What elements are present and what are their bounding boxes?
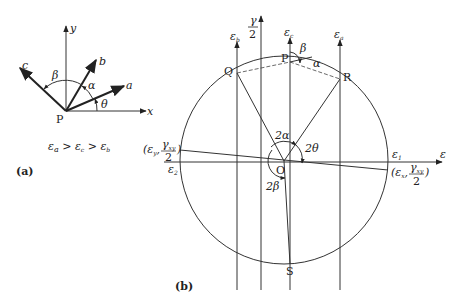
point-eps-y-label: (εy, γxy ) 2: [143, 138, 181, 164]
panel-b: ε γ 2 εb εc εa Q P R S O β: [143, 14, 446, 293]
ray-b-label: b: [99, 55, 106, 68]
ray-a-label: a: [126, 79, 133, 92]
two-theta-arc: [296, 145, 302, 163]
two-alpha-arc: [271, 141, 296, 147]
panel-b-label: (b): [175, 280, 193, 293]
panel-a-label: (a): [16, 165, 34, 178]
epsilon-axis-label: ε: [440, 148, 446, 161]
point-S: S: [286, 265, 294, 278]
svg-text:γ: γ: [250, 14, 257, 27]
svg-text:(εx,: (εx,: [391, 166, 408, 179]
theta-label: θ: [101, 98, 108, 111]
alpha-label: α: [88, 79, 96, 92]
ray-c-label: c: [22, 59, 28, 72]
svg-text:γxy: γxy: [410, 161, 424, 175]
svg-text:γxy: γxy: [162, 138, 176, 152]
gamma-axis-label: γ 2: [248, 14, 258, 41]
two-theta-label: 2θ: [304, 142, 319, 155]
two-beta-label: 2β: [265, 180, 279, 193]
epsilon-2-label: ε2: [168, 163, 178, 176]
epsilon-b-label: εb: [230, 30, 240, 43]
beta-arc: [44, 80, 82, 89]
svg-text:(εy,: (εy,: [143, 143, 160, 157]
strain-condition: εa > εc > εb: [48, 140, 110, 154]
point-R: R: [343, 71, 352, 84]
svg-text:): ): [424, 166, 429, 179]
panel-a: y x a b c θ α β P εa > εc > εb (a): [16, 22, 154, 178]
epsilon-1-label: ε1: [392, 148, 402, 161]
origin-P: P: [56, 113, 64, 126]
beta-label: β: [51, 69, 58, 82]
y-axis-label: y: [69, 22, 77, 35]
two-alpha-label: 2α: [274, 129, 290, 142]
point-O: O: [276, 164, 285, 177]
mohr-circle-figure: y x a b c θ α β P εa > εc > εb (a) ε: [0, 0, 454, 307]
beta-label-p: β: [299, 42, 306, 55]
theta-arc: [95, 99, 97, 111]
point-P: P: [281, 52, 289, 65]
ray-c: [20, 68, 66, 111]
point-eps-x-label: (εx, γxy ) 2: [391, 161, 429, 188]
alpha-label-p: α: [313, 57, 321, 70]
x-axis-label: x: [147, 105, 154, 118]
svg-text:2: 2: [249, 28, 256, 41]
point-Q: Q: [224, 65, 233, 78]
svg-text:): ): [176, 143, 181, 156]
epsilon-a-label: εa: [334, 28, 344, 41]
svg-text:2: 2: [165, 151, 172, 164]
epsilon-c-label: εc: [284, 26, 294, 39]
svg-text:2: 2: [413, 175, 420, 188]
